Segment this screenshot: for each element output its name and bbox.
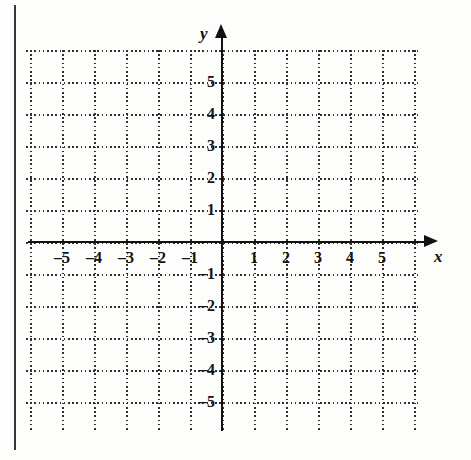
y-axis-label: y	[200, 25, 208, 42]
grid-line-vertical	[62, 50, 64, 430]
y-axis-line	[221, 30, 223, 431]
grid-line-vertical	[318, 50, 320, 430]
x-axis-arrow-icon	[424, 235, 438, 247]
y-tick-label: –5	[199, 394, 215, 410]
coordinate-plane-figure: y x –5–4–3–2–112345 54321–1–2–3–4–5	[0, 0, 471, 460]
x-tick-label: 3	[314, 250, 322, 266]
grid-line-vertical	[350, 50, 352, 430]
x-tick-label: –3	[118, 250, 134, 266]
grid-line-vertical	[414, 50, 416, 430]
x-axis-label: x	[434, 248, 443, 265]
y-tick-label: –3	[199, 330, 215, 346]
scanned-page: y x –5–4–3–2–112345 54321–1–2–3–4–5	[0, 0, 471, 460]
x-tick-label: –1	[182, 250, 198, 266]
grid-line-vertical	[94, 50, 96, 430]
x-axis-line	[28, 241, 432, 243]
x-tick-label: –4	[86, 250, 102, 266]
grid-line-vertical	[190, 50, 192, 430]
y-tick-label: –2	[199, 298, 215, 314]
x-tick-label: –2	[150, 250, 166, 266]
x-tick-label: –5	[54, 250, 70, 266]
grid-line-vertical	[30, 50, 32, 430]
grid-line-vertical	[286, 50, 288, 430]
grid-line-vertical	[254, 50, 256, 430]
y-tick-label: 5	[207, 74, 215, 90]
y-tick-label: 3	[207, 138, 215, 154]
grid-line-vertical	[126, 50, 128, 430]
y-tick-label: –4	[199, 362, 215, 378]
x-tick-label: 4	[346, 250, 354, 266]
grid-line-vertical	[158, 50, 160, 430]
x-tick-label: 5	[378, 250, 386, 266]
y-axis-arrow-icon	[215, 24, 227, 38]
y-tick-label: 4	[207, 106, 215, 122]
y-tick-label: 1	[207, 202, 215, 218]
y-tick-label: 2	[207, 170, 215, 186]
x-tick-label: 2	[282, 250, 290, 266]
y-tick-label: –1	[199, 266, 215, 282]
x-tick-label: 1	[250, 250, 258, 266]
grid-line-vertical	[382, 50, 384, 430]
